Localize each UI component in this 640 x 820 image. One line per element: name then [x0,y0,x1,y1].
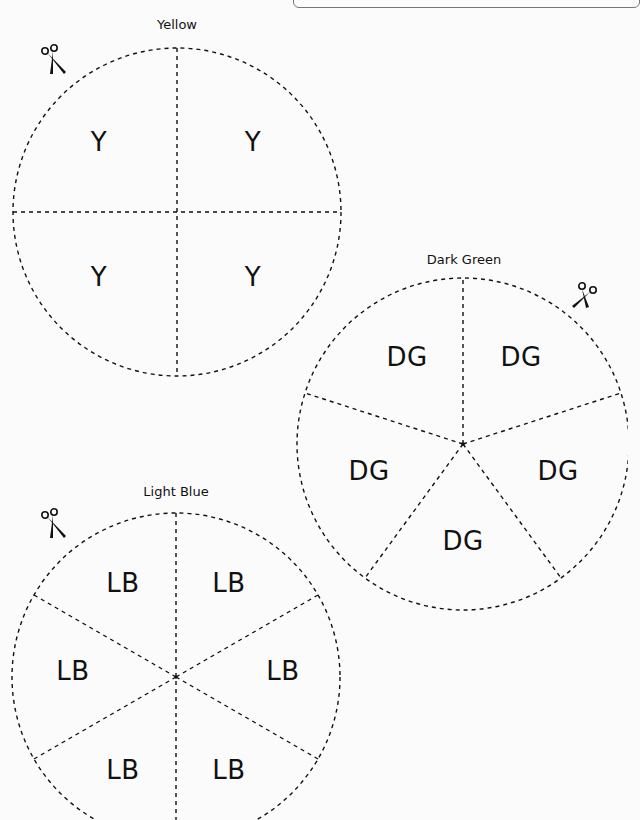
yellow-section-label: Y [245,262,261,292]
light-blue-section-label: LB [106,755,139,785]
yellow-circle [13,48,341,376]
yellow-title: Yellow [157,17,197,32]
dark-green-section-label: DG [442,526,483,556]
dark-green-section-label: DG [500,342,541,372]
light-blue-title: Light Blue [143,484,208,499]
light-blue-section-label: LB [106,568,139,598]
scissors-icon [40,508,74,542]
dark-green-section-label: DG [348,456,389,486]
light-blue-section-label: LB [266,656,299,686]
yellow-section-label: Y [91,262,107,292]
dark-green-section-label: DG [537,456,578,486]
yellow-section-label: Y [245,127,261,157]
scissors-icon [40,44,74,78]
dark-green-section-label: DG [386,342,427,372]
scissors-icon [568,282,602,316]
light-blue-section-label: LB [212,755,245,785]
light-blue-section-label: LB [212,568,245,598]
light-blue-section-label: LB [56,656,89,686]
yellow-section-label: Y [91,127,107,157]
dark-green-title: Dark Green [427,252,501,267]
